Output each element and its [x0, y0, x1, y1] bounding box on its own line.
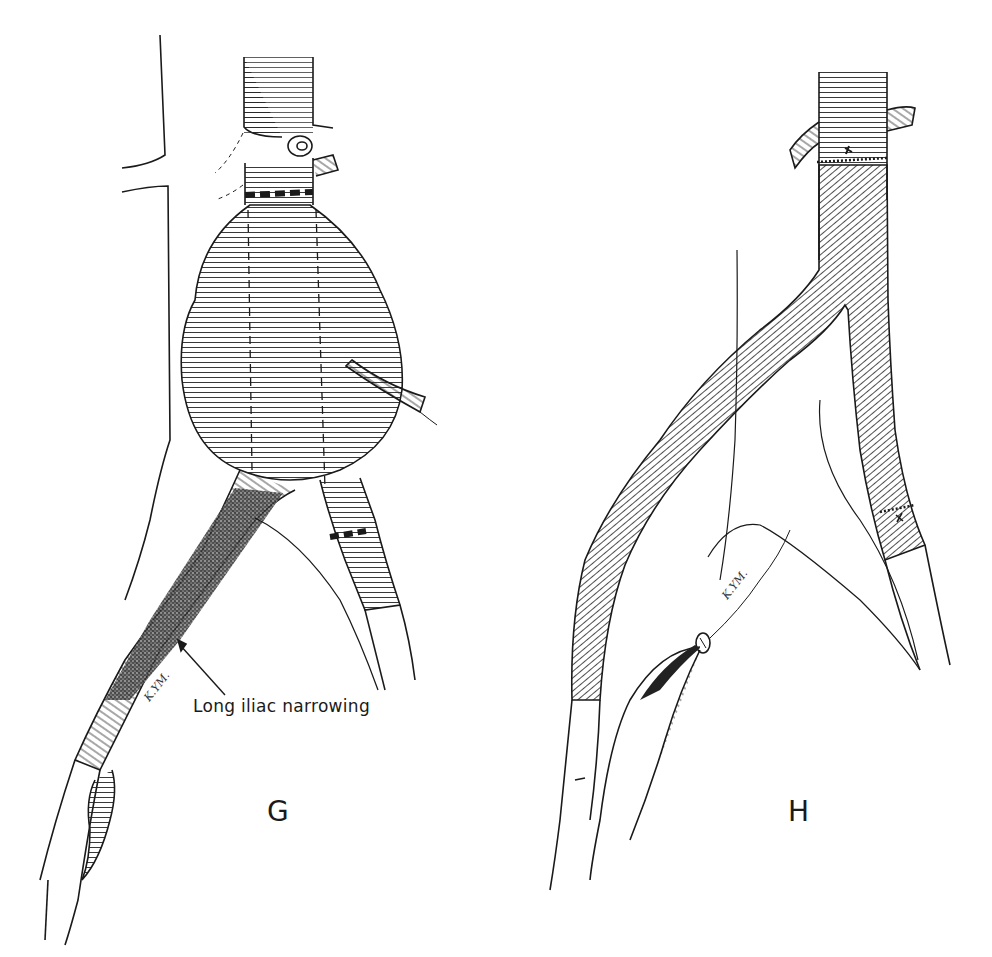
- surgical-illustration: [0, 0, 992, 957]
- graft-body: [572, 165, 925, 700]
- callout-arrow: [180, 645, 225, 695]
- vena-cava-outline: [122, 35, 165, 168]
- callout-long-iliac-narrowing: Long iliac narrowing: [193, 696, 370, 716]
- right-iliac: [320, 478, 400, 610]
- aorta-h: [819, 72, 887, 167]
- panel-g: [40, 35, 437, 945]
- aneurysm-sac: [181, 205, 402, 480]
- ligated-branch: [288, 136, 312, 156]
- panel-h: [550, 72, 950, 890]
- panel-letter-h: H: [788, 795, 809, 828]
- panel-letter-g: G: [267, 795, 289, 828]
